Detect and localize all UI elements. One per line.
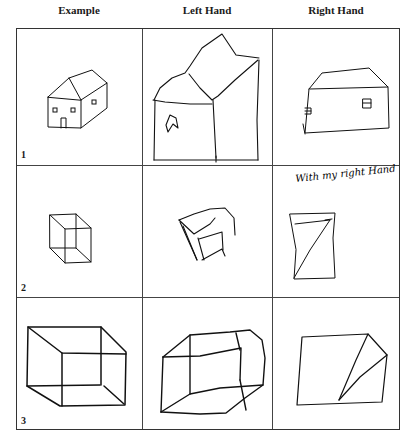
example-large-cube-drawing [27,327,126,406]
example-cube-drawing [50,214,91,263]
left-hand-house-drawing [153,34,259,162]
left-hand-cube-drawing [179,208,235,260]
right-hand-house-drawing [303,68,389,134]
right-hand-large-cube-drawing [297,334,387,405]
right-hand-caption: With my right Hand [295,163,396,184]
left-hand-large-cube-drawing [161,330,265,414]
example-house-drawing [48,70,107,128]
drawings-layer: With my right Hand [0,0,413,442]
right-hand-cube-drawing [290,213,335,279]
